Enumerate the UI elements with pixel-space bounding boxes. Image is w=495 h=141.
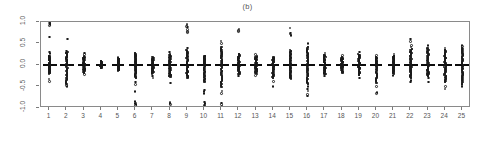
data-point-outlier [66, 85, 69, 88]
data-point [307, 46, 309, 48]
data-point-outlier [237, 30, 240, 33]
data-point-outlier [461, 45, 464, 48]
data-point-outlier [307, 42, 310, 45]
data-point-outlier [409, 81, 412, 84]
x-axis-tick [48, 107, 49, 110]
data-point-outlier [66, 38, 69, 41]
data-point-outlier [220, 42, 223, 45]
data-point-outlier [289, 27, 292, 30]
data-point-outlier [358, 77, 361, 80]
data-point-outlier [48, 24, 51, 27]
data-point-outlier [134, 90, 137, 93]
data-point-outlier [427, 77, 430, 80]
data-point-outlier [290, 34, 293, 37]
x-axis-tick-label: 25 [451, 112, 471, 119]
x-axis-tick [392, 107, 393, 110]
data-point-outlier [220, 92, 223, 95]
data-point [203, 55, 205, 57]
data-point-outlier [409, 40, 412, 43]
x-axis-tick [409, 107, 410, 110]
y-axis-tick [36, 42, 39, 43]
data-point-outlier [48, 36, 51, 39]
data-point-outlier [186, 47, 189, 50]
y-axis-tick [36, 21, 39, 22]
plot-data-area [41, 22, 469, 106]
data-point-outlier [203, 92, 206, 95]
data-point-outlier [221, 105, 224, 107]
x-axis-tick [237, 107, 238, 110]
x-axis-tick [117, 107, 118, 110]
data-point-outlier [375, 85, 378, 88]
x-axis-tick [461, 107, 462, 110]
x-axis-tick [306, 107, 307, 110]
data-point-outlier [237, 75, 240, 78]
x-axis-tick [323, 107, 324, 110]
x-axis-tick [186, 107, 187, 110]
data-point [272, 56, 274, 58]
data-point-outlier [169, 82, 172, 85]
x-axis-tick [83, 107, 84, 110]
data-point-outlier [48, 80, 51, 83]
data-point-outlier [134, 83, 137, 86]
data-point-outlier [306, 95, 309, 98]
data-point-outlier [307, 90, 310, 93]
data-point-outlier [427, 44, 430, 47]
data-point-outlier [186, 31, 189, 34]
data-point-outlier [444, 88, 447, 91]
data-point-outlier [169, 103, 172, 106]
y-axis-tick [36, 64, 39, 65]
x-axis-tick [100, 107, 101, 110]
y-axis-tick-label: 1.0 [19, 11, 26, 31]
chart-figure: (b) 1.00.50.0-0.5-1.0 123456789101112131… [0, 0, 495, 141]
x-axis-tick [341, 107, 342, 110]
data-point-outlier [152, 77, 155, 80]
data-point-outlier [254, 53, 257, 56]
x-axis-tick [444, 107, 445, 110]
x-axis-tick [151, 107, 152, 110]
x-axis-tick [289, 107, 290, 110]
y-axis-tick-label: -1.0 [19, 97, 26, 117]
data-point [238, 53, 240, 55]
x-axis-tick [272, 107, 273, 110]
data-point-outlier [272, 80, 275, 83]
data-point-outlier [375, 54, 378, 57]
page-title: (b) [0, 2, 495, 11]
data-point [427, 47, 429, 49]
plot-frame [40, 21, 470, 107]
y-axis-tick-label: 0.0 [19, 54, 26, 74]
data-point-outlier [427, 81, 430, 84]
data-point-outlier [341, 54, 344, 57]
data-point-outlier [272, 85, 275, 88]
data-point-outlier [375, 92, 378, 95]
x-axis-tick [203, 107, 204, 110]
x-axis-tick [255, 107, 256, 110]
y-axis-tick [36, 85, 39, 86]
x-axis-tick [169, 107, 170, 110]
data-point-outlier [49, 52, 52, 55]
y-axis-tick [36, 107, 39, 108]
x-axis-tick [427, 107, 428, 110]
data-point-outlier [323, 75, 326, 78]
x-axis-tick [220, 107, 221, 110]
data-point-outlier [83, 73, 86, 76]
x-axis-tick [358, 107, 359, 110]
x-axis-tick [134, 107, 135, 110]
data-point [221, 46, 223, 48]
data-point-outlier [324, 52, 327, 55]
x-axis-tick [375, 107, 376, 110]
data-point-outlier [461, 85, 464, 88]
data-point-outlier [203, 105, 206, 107]
data-point-outlier [134, 104, 137, 107]
data-point-outlier [254, 74, 257, 77]
data-point-outlier [83, 53, 86, 56]
y-axis-tick-label: 0.5 [19, 32, 26, 52]
x-axis-tick [65, 107, 66, 110]
y-axis-tick-label: -0.5 [19, 75, 26, 95]
